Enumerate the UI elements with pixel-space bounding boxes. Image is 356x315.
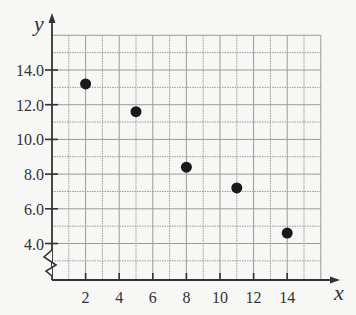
axes [44,13,340,284]
data-point [231,182,242,193]
data-point [80,78,91,89]
grid [52,35,321,280]
y-axis-label: y [32,11,44,36]
x-tick-label: 2 [82,289,90,306]
y-tick-label: 14.0 [16,62,44,79]
data-point [282,228,293,239]
x-tick-label: 14 [279,289,295,306]
x-axis-label: x [333,280,344,305]
x-tick-label: 6 [149,289,157,306]
data-point [131,106,142,117]
y-tick-label: 10.0 [16,131,44,148]
y-axis-arrow-icon [49,13,56,23]
y-tick-label: 8.0 [24,166,44,183]
y-tick-label: 12.0 [16,97,44,114]
x-ticks: 2468101214 [82,273,296,306]
y-tick-label: 4.0 [24,236,44,253]
x-tick-label: 8 [182,289,190,306]
data-point [181,162,192,173]
y-tick-label: 6.0 [24,201,44,218]
scatter-chart: 2468101214 4.06.08.010.012.014.0 y x [0,0,356,315]
x-tick-label: 4 [115,289,123,306]
x-tick-label: 10 [212,289,228,306]
axis-break-icon [44,250,56,276]
x-tick-label: 12 [246,289,262,306]
